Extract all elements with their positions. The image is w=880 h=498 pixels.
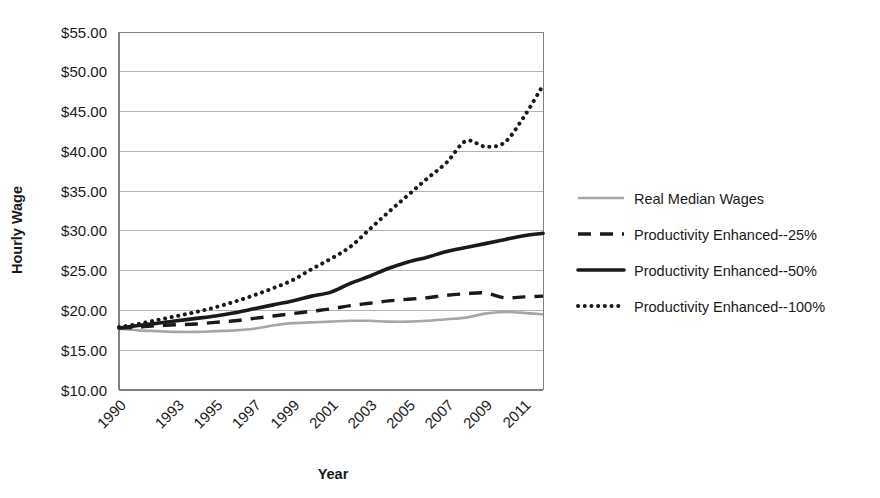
- y-axis-title: Hourly Wage: [9, 186, 25, 274]
- y-axis-tick-label: $50.00: [61, 63, 107, 80]
- y-axis-tick-label: $35.00: [61, 183, 107, 200]
- y-axis-tick-label: $10.00: [61, 382, 107, 399]
- y-axis-tick-label: $15.00: [61, 342, 107, 359]
- legend-label: Real Median Wages: [634, 191, 764, 207]
- legend-label: Productivity Enhanced--50%: [634, 263, 817, 279]
- y-axis-tick-label: $40.00: [61, 143, 107, 160]
- legend-label: Productivity Enhanced--100%: [634, 299, 825, 315]
- y-axis-tick-label: $25.00: [61, 262, 107, 279]
- x-axis-title: Year: [318, 466, 349, 482]
- legend-label: Productivity Enhanced--25%: [634, 227, 817, 243]
- wage-productivity-line-chart: $55.00$50.00$45.00$40.00$35.00$30.00$25.…: [0, 0, 880, 498]
- y-axis-tick-label: $20.00: [61, 302, 107, 319]
- y-axis-tick-label: $30.00: [61, 222, 107, 239]
- y-axis-tick-label: $55.00: [61, 24, 107, 41]
- y-axis-tick-label: $45.00: [61, 103, 107, 120]
- chart-container: $55.00$50.00$45.00$40.00$35.00$30.00$25.…: [0, 0, 880, 498]
